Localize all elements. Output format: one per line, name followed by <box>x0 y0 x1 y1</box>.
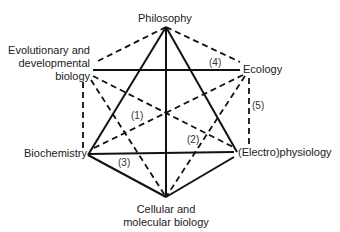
node-evo-line2: developmental <box>0 57 90 70</box>
edge-label-2: (2) <box>187 134 199 146</box>
edge-label-5: (5) <box>252 100 264 112</box>
node-evo-line3: biology <box>0 70 90 83</box>
node-philosophy: Philosophy <box>138 12 192 25</box>
edge-philosophy-ecology <box>166 27 240 62</box>
node-evo-line1: Evolutionary and <box>0 44 90 57</box>
edge-evo-cellular <box>91 80 166 197</box>
node-evolutionary-developmental-biology: Evolutionary and developmental biology <box>0 44 90 83</box>
edge-label-3: (3) <box>118 157 130 169</box>
edge-electrophysiology-cellular <box>166 157 234 197</box>
edge-philosophy-electrophysiology <box>166 27 237 152</box>
node-cellular-molecular-biology: Cellular and molecular biology <box>116 203 216 229</box>
edge-label-4: (4) <box>209 57 221 69</box>
edge-label-1: (1) <box>131 110 143 122</box>
node-electrophysiology: (Electro)physiology <box>238 146 332 159</box>
node-cellular-line2: molecular biology <box>116 216 216 229</box>
node-ecology: Ecology <box>243 63 282 76</box>
node-cellular-line1: Cellular and <box>116 203 216 216</box>
interdisciplinary-hexagon-diagram <box>0 0 340 232</box>
edge-biochemistry-electrophysiology <box>88 152 234 154</box>
node-biochemistry: Biochemistry <box>24 147 87 160</box>
